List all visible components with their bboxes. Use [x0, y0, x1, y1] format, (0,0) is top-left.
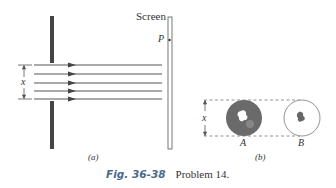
disk-a-label: A	[240, 137, 246, 148]
point-p-marker	[168, 39, 170, 41]
ray-arrowheads	[68, 63, 76, 102]
screen-label: Screen	[136, 10, 166, 22]
width-label-b: x	[202, 112, 206, 123]
figure-caption: Fig. 36-38 Problem 14.	[106, 164, 229, 182]
disk-a	[226, 100, 262, 136]
disk-b	[284, 100, 320, 136]
caption-text: Problem 14.	[176, 168, 230, 180]
screen	[168, 17, 172, 149]
panel-a-label: (a)	[88, 152, 99, 162]
figure-number: Fig. 36-38	[106, 168, 166, 180]
disk-b-label: B	[298, 137, 304, 148]
panel-b-label: (b)	[255, 152, 266, 162]
diagram-canvas	[0, 0, 336, 188]
point-p-label: P	[158, 33, 164, 44]
light-rays	[34, 65, 162, 99]
width-label-a: x	[21, 76, 25, 87]
